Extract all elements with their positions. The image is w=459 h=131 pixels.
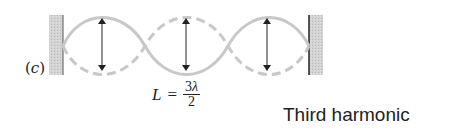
numerator-coefficient: 3	[185, 79, 192, 94]
formula-fraction: 3λ 2	[183, 80, 200, 109]
formula-equals: =	[167, 85, 177, 105]
panel-label: (c)	[25, 59, 45, 77]
panel-label-letter: c	[31, 59, 39, 77]
left-wall	[49, 15, 63, 75]
length-formula: L = 3λ 2	[152, 80, 200, 109]
lambda-symbol: λ	[192, 79, 198, 94]
right-wall	[309, 15, 323, 75]
caption: Third harmonic	[283, 104, 410, 126]
formula-denominator: 2	[188, 95, 195, 109]
panel-label-close: )	[39, 59, 45, 77]
formula-numerator: 3λ	[183, 80, 200, 95]
formula-lhs: L	[152, 85, 161, 105]
